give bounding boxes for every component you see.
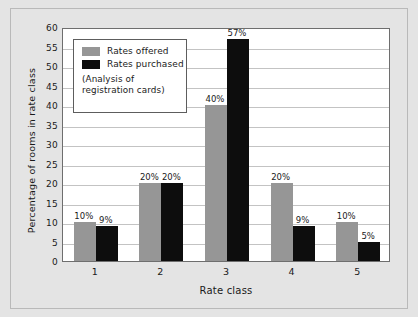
bar [358, 242, 380, 262]
y-axis-tick: 5 [52, 238, 58, 248]
bar [293, 226, 315, 261]
y-axis-tick: 30 [46, 140, 58, 150]
y-axis-tick: 45 [46, 82, 58, 92]
legend-label-rates-purchased: Rates purchased [107, 59, 184, 69]
y-axis-tick: 10 [46, 218, 58, 228]
y-axis-tick: 20 [46, 179, 58, 189]
bar [96, 226, 118, 261]
legend-note-line-1: (Analysis of [82, 74, 180, 85]
bar-value-label: 5% [351, 231, 385, 241]
x-axis-tick: 4 [272, 266, 312, 277]
y-axis-tick: 55 [46, 43, 58, 53]
y-axis-tick: 35 [46, 121, 58, 131]
chart-figure: Percentage of rooms in rate class 051015… [0, 0, 418, 317]
x-axis-tick: 2 [140, 266, 180, 277]
y-axis-tick: 15 [46, 199, 58, 209]
bar-value-label: 57% [220, 28, 254, 38]
x-axis-tick: 5 [337, 266, 377, 277]
legend-note: (Analysis of registration cards) [82, 74, 180, 96]
plot-area: Rates offered Rates purchased (Analysis … [62, 28, 390, 262]
bar-value-label: 20% [154, 172, 188, 182]
y-axis-tick: 50 [46, 62, 58, 72]
bar-value-label: 10% [329, 211, 363, 221]
bar-value-label: 40% [198, 94, 232, 104]
legend-swatch-rates-purchased [82, 60, 100, 69]
bar-value-label: 9% [286, 215, 320, 225]
legend-item-rates-purchased: Rates purchased [82, 59, 180, 69]
y-axis-tick: 40 [46, 101, 58, 111]
y-axis-tick: 25 [46, 160, 58, 170]
x-axis-tick: 1 [75, 266, 115, 277]
legend-note-line-2: registration cards) [82, 85, 180, 96]
bar [336, 222, 358, 261]
y-axis-tick-labels: 051015202530354045505560 [0, 0, 62, 317]
x-axis-tick: 3 [206, 266, 246, 277]
x-axis-title: Rate class [62, 285, 390, 296]
y-axis-tick: 60 [46, 23, 58, 33]
bar [74, 222, 96, 261]
chart-legend: Rates offered Rates purchased (Analysis … [73, 39, 187, 113]
legend-item-rates-offered: Rates offered [82, 46, 180, 56]
bar-value-label: 9% [89, 215, 123, 225]
legend-swatch-rates-offered [82, 47, 100, 56]
bar [205, 105, 227, 261]
bar [139, 183, 161, 261]
bar [227, 39, 249, 261]
bar [161, 183, 183, 261]
bar-value-label: 20% [264, 172, 298, 182]
y-axis-tick: 0 [52, 257, 58, 267]
legend-label-rates-offered: Rates offered [107, 46, 169, 56]
